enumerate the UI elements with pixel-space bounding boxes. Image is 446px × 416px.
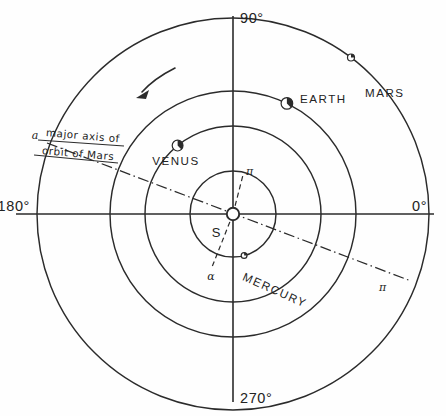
planet-marker-mars — [348, 54, 355, 61]
planet-marker-venus — [172, 140, 183, 151]
orbit-diagram-figure: 90° 0° 270° 180° S EARTH MARS VENUS MERC… — [0, 0, 446, 416]
sun-marker-group — [227, 208, 239, 220]
planet-label-venus: VENUS — [152, 154, 199, 167]
alpha-axis-label: a — [32, 129, 39, 142]
planet-marker-mercury — [241, 253, 247, 259]
principal-axes — [16, 16, 434, 402]
sun-icon — [227, 208, 239, 220]
axis-label-90deg: 90° — [240, 10, 264, 26]
planet-label-mercury: MERCURY — [241, 270, 309, 310]
pi-outer-label: π — [378, 281, 387, 294]
axis-label-0deg: 0° — [412, 198, 427, 214]
alpha-angle-label: α — [207, 270, 215, 283]
sun-label: S — [212, 225, 221, 240]
planet-marker-earth — [281, 98, 293, 110]
axis-label-270deg: 270° — [240, 390, 272, 406]
rotation-direction-arrow — [136, 68, 175, 99]
rotation-arrow-shaft — [142, 68, 175, 92]
planet-label-mars: MARS — [365, 86, 405, 99]
axis-label-180deg: 180° — [0, 198, 30, 214]
mars-shaded-limb — [351, 54, 355, 58]
pi-inner-label: π — [245, 165, 254, 178]
ray-to-alpha — [212, 214, 233, 267]
orbit-diagram-canvas: 90° 0° 270° 180° S EARTH MARS VENUS MERC… — [0, 0, 446, 416]
planet-label-earth: EARTH — [300, 92, 347, 105]
